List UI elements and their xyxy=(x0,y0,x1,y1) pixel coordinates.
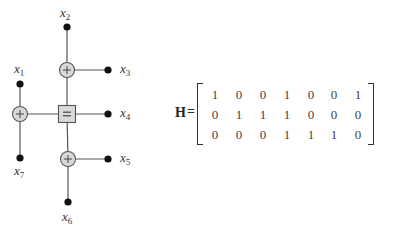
matrix-cell: 0 xyxy=(256,128,270,141)
matrix-cell: 0 xyxy=(327,88,341,101)
matrix-cell: 0 xyxy=(256,88,270,101)
variable-node-x7 xyxy=(16,154,23,161)
tanner-graph xyxy=(0,0,140,231)
matrix-cell: 1 xyxy=(280,128,294,141)
matrix-cell: 0 xyxy=(232,88,246,101)
matrix-cell: 1 xyxy=(256,108,270,121)
variable-node-x6 xyxy=(64,198,71,205)
matrix-cell: 1 xyxy=(232,108,246,121)
equality-node-e1 xyxy=(59,106,76,123)
variable-node-x1 xyxy=(16,80,23,87)
matrix-cell: 1 xyxy=(280,88,294,101)
variable-label-x4: x4 xyxy=(120,106,130,122)
variable-node-x5 xyxy=(104,155,111,162)
matrix-cell: 0 xyxy=(208,128,222,141)
variable-label-x3: x3 xyxy=(120,62,130,78)
variable-label-x6: x6 xyxy=(62,210,72,226)
variable-label-x5: x5 xyxy=(120,151,130,167)
variable-node-x4 xyxy=(104,110,111,117)
variable-label-x7: x7 xyxy=(14,164,24,180)
right-bracket xyxy=(368,83,374,145)
matrix-cell: 1 xyxy=(304,128,318,141)
matrix-cell: 0 xyxy=(232,128,246,141)
matrix-cell: 1 xyxy=(208,88,222,101)
matrix-cell: 1 xyxy=(280,108,294,121)
variable-label-x2: x2 xyxy=(60,6,70,22)
equals-sign: = xyxy=(187,104,195,120)
matrix-cell: 0 xyxy=(208,108,222,121)
variable-label-x1: x1 xyxy=(14,62,24,78)
variable-node-x3 xyxy=(104,66,111,73)
matrix-cell: 1 xyxy=(351,88,365,101)
matrix-cell: 0 xyxy=(304,88,318,101)
matrix-cell: 0 xyxy=(351,128,365,141)
matrix-cell: 0 xyxy=(327,108,341,121)
matrix-cell: 0 xyxy=(304,108,318,121)
matrix-name: H xyxy=(175,105,186,121)
matrix-cell: 1 xyxy=(327,128,341,141)
left-bracket xyxy=(197,83,203,145)
matrix-cell: 0 xyxy=(351,108,365,121)
variable-node-x2 xyxy=(63,23,70,30)
parity-check-matrix: H = 100100101110000001110 xyxy=(172,80,382,146)
